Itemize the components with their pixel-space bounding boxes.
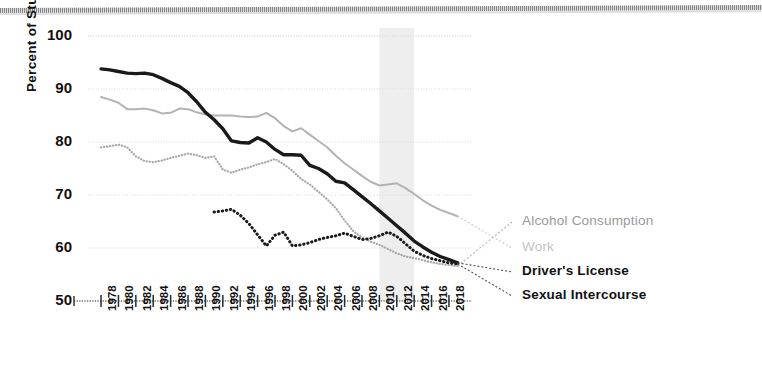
x-tick-label-2006: 2006 bbox=[350, 285, 362, 311]
legend-leader-line-1 bbox=[458, 216, 512, 248]
x-tick-label-1994: 1994 bbox=[245, 285, 257, 311]
legend-item-work: Work bbox=[522, 239, 554, 254]
y-tick-label-60: 60 bbox=[30, 238, 72, 255]
chart-figure: Percent of Students 1009080706050 197819… bbox=[0, 0, 762, 376]
x-tick-label-2004: 2004 bbox=[332, 285, 344, 311]
x-tick-label-1984: 1984 bbox=[158, 285, 170, 311]
x-tick-label-1986: 1986 bbox=[176, 285, 188, 311]
x-tick-label-1990: 1990 bbox=[210, 285, 222, 311]
y-tick-label-70: 70 bbox=[30, 185, 72, 202]
x-tick-label-2002: 2002 bbox=[315, 285, 327, 311]
x-tick-label-1980: 1980 bbox=[123, 285, 135, 311]
legend-item-alcohol-consumption: Alcohol Consumption bbox=[522, 213, 653, 228]
y-tick-label-50: 50 bbox=[30, 291, 72, 308]
series-line-sexual-intercourse bbox=[214, 209, 458, 264]
x-tick-label-1988: 1988 bbox=[193, 285, 205, 311]
x-tick-label-2018: 2018 bbox=[454, 285, 466, 311]
x-tick-label-1978: 1978 bbox=[106, 285, 118, 311]
shaded-region-2010-2014 bbox=[379, 28, 414, 301]
x-tick-label-2014: 2014 bbox=[419, 285, 431, 311]
chart-plot bbox=[0, 0, 762, 376]
x-tick-label-1996: 1996 bbox=[263, 285, 275, 311]
x-tick-label-1982: 1982 bbox=[141, 285, 153, 311]
x-tick-label-2016: 2016 bbox=[437, 285, 449, 311]
x-tick-label-2012: 2012 bbox=[402, 285, 414, 311]
legend-item-driver-s-license: Driver's License bbox=[522, 263, 629, 278]
x-tick-label-1998: 1998 bbox=[280, 285, 292, 311]
legend-leader-line-2 bbox=[458, 263, 512, 272]
legend-leader-line-0 bbox=[458, 222, 512, 266]
legend-item-sexual-intercourse: Sexual Intercourse bbox=[522, 287, 646, 302]
x-tick-label-2000: 2000 bbox=[297, 285, 309, 311]
y-tick-label-100: 100 bbox=[30, 26, 72, 43]
y-tick-label-90: 90 bbox=[30, 79, 72, 96]
x-tick-label-2008: 2008 bbox=[367, 285, 379, 311]
x-tick-label-2010: 2010 bbox=[384, 285, 396, 311]
x-tick-label-1992: 1992 bbox=[228, 285, 240, 311]
y-tick-label-80: 80 bbox=[30, 132, 72, 149]
